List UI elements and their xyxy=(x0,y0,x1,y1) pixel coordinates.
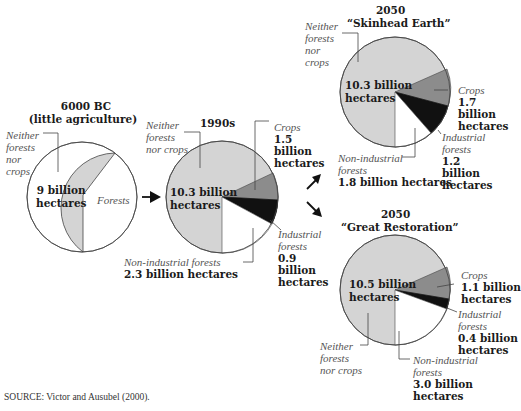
pie3-title-year: 2050 xyxy=(376,4,405,16)
pie4-center-value: 10.5 billion hectares xyxy=(349,278,416,304)
pie4-subtitle: “Great Restoration” xyxy=(341,221,459,233)
arrow-down-right-icon xyxy=(307,202,322,217)
pie2-crops-label: Crops 1.5 billion hectares xyxy=(274,121,325,169)
pie1-center-value: 9 billion hectares xyxy=(36,184,87,210)
pie3-subtitle: “Skinhead Earth” xyxy=(347,17,451,29)
source-note: SOURCE: Victor and Ausubel (2000). xyxy=(4,392,150,402)
pie3-crops-label: Crops 1.7 billion hectares xyxy=(458,84,509,132)
arrow-right-icon xyxy=(142,191,161,203)
pie1-forests-label: Forests xyxy=(97,194,130,206)
pie4-industrial-label: Industrial forests 0.4 billion hectares xyxy=(458,308,518,356)
pie3-neither-label: Neither forests nor crops xyxy=(305,20,338,68)
pie1-neither-label: Neither forests nor crops xyxy=(6,129,39,177)
pie3-nonindustrial-label: Non-industrial forests 1.8 billion hecta… xyxy=(338,152,452,188)
pie2-title: 1990s xyxy=(200,117,235,129)
pie4-nonindustrial-label: Non-industrial forests 3.0 billion hecta… xyxy=(413,354,478,402)
pie1-title-year: 6000 BC xyxy=(46,100,126,112)
pie2-center-value: 10.3 billion hectares xyxy=(170,186,237,212)
pie2-nonindustrial-label: Non-industrial forests 2.3 billion hecta… xyxy=(124,256,238,280)
pie2-industrial-label: Industrial forests 0.9 billion hectares xyxy=(278,228,329,288)
pie1-subtitle: (little agriculture) xyxy=(28,113,138,125)
pie4-crops-label: Crops 1.1 billion hectares xyxy=(461,269,521,305)
pie3-center-value: 10.3 billion hectares xyxy=(345,79,412,105)
pie4-title-year: 2050 xyxy=(381,208,410,220)
arrow-up-right-icon xyxy=(307,174,321,189)
pie2-neither-label: Neither forests nor crops xyxy=(146,119,188,155)
pie4-neither-label: Neither forests nor crops xyxy=(320,340,362,376)
